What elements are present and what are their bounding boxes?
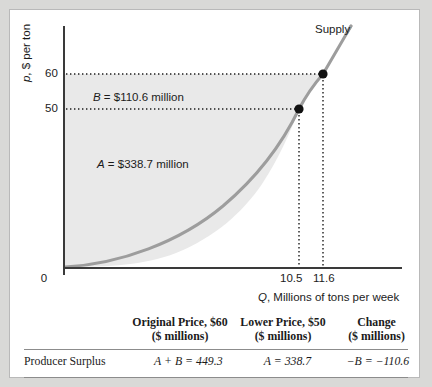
region-b-value: = $110.6 million: [101, 91, 184, 103]
region-b-symbol: B: [93, 91, 101, 103]
table-header-row: Original Price, $60 ($ millions) Lower P…: [10, 315, 421, 345]
table-header-blank: [10, 315, 126, 345]
table-header-lower-price-line2: ($ millions): [234, 329, 332, 343]
x-tick-11-6: 11.6: [313, 272, 335, 284]
table-body: Producer Surplus A + B = 449.3 A = 338.7…: [10, 354, 421, 369]
table-row-label-producer-surplus: Producer Surplus: [10, 354, 136, 369]
table-cell-original-price: A + B = 449.3: [136, 354, 240, 369]
y-axis-title: p, $ per ton: [20, 10, 32, 96]
table-cell-change-text: −B = −110.6: [347, 354, 410, 368]
table-header-original-price-line1: Original Price, $60: [132, 315, 227, 329]
table-rule-bottom: [24, 377, 408, 378]
region-a-value: = $338.7 million: [105, 158, 189, 170]
data-point-original-price: [318, 69, 327, 78]
x-tick-10-5: 10.5: [280, 272, 302, 284]
table-cell-change: −B = −110.6: [335, 354, 421, 369]
x-axis-title-symbol: Q: [258, 291, 267, 303]
region-a-shade: [64, 109, 299, 267]
origin-label: 0: [30, 272, 58, 284]
region-a-symbol: A: [97, 158, 105, 170]
table-header-change: Change ($ millions): [332, 315, 421, 345]
data-point-lower-price: [294, 104, 303, 113]
table-header-lower-price-line1: Lower Price, $50: [240, 315, 325, 329]
y-axis-line: [63, 26, 65, 275]
table-header-original-price: Original Price, $60 ($ millions): [126, 315, 234, 345]
table-cell-lower-price: A = 338.7: [240, 354, 334, 369]
table-rule-top: [24, 349, 408, 350]
region-b-label: B = $110.6 million: [93, 91, 184, 103]
y-tick-50: 50: [30, 102, 58, 114]
table-cell-original-price-text: A + B = 449.3: [154, 354, 222, 368]
y-tick-60: 60: [30, 67, 58, 79]
supply-curve-svg: [10, 10, 421, 310]
chart-plot-area: p, $ per ton Q, Millions of tons per wee…: [10, 10, 421, 310]
figure-panel: p, $ per ton Q, Millions of tons per wee…: [9, 9, 420, 378]
table-header-lower-price: Lower Price, $50 ($ millions): [234, 315, 332, 345]
table-row: Producer Surplus A + B = 449.3 A = 338.7…: [10, 354, 421, 369]
x-axis-title: Q, Millions of tons per week: [258, 291, 399, 303]
table-header-change-line2: ($ millions): [332, 329, 421, 343]
x-axis-line: [63, 267, 402, 269]
table-cell-lower-price-text: A = 338.7: [264, 354, 311, 368]
x-axis-title-rest: , Millions of tons per week: [267, 291, 399, 303]
supply-curve-label: Supply: [315, 23, 350, 35]
figure-root: p, $ per ton Q, Millions of tons per wee…: [0, 0, 432, 387]
table-header-original-price-line2: ($ millions): [126, 329, 234, 343]
table-header-change-line1: Change: [357, 315, 396, 329]
region-a-label: A = $338.7 million: [97, 158, 189, 170]
